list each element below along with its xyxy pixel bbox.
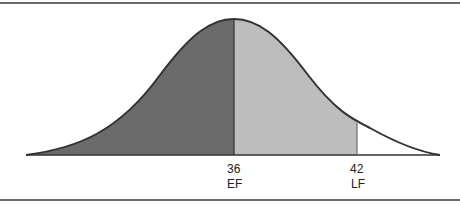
- lf-name-label: LF: [351, 177, 365, 191]
- ef-value-label: 36: [227, 162, 240, 176]
- region-before-ef: [0, 0, 234, 155]
- lf-value-label: 42: [350, 162, 363, 176]
- ef-name-label: EF: [227, 177, 242, 191]
